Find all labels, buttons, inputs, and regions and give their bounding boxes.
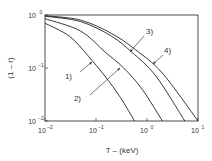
x-tick-exponent: 1 xyxy=(202,124,205,130)
x-tick-label: 10 xyxy=(38,127,46,134)
curve-labels: 1)2)3)4) xyxy=(65,27,172,103)
y-tick-label: 10 xyxy=(28,118,36,125)
curves xyxy=(45,16,198,121)
curve-3 xyxy=(45,16,185,121)
y-axis-title: (1 – r) xyxy=(6,57,15,79)
y-tick-exponent: 0 xyxy=(40,9,43,15)
x-tick-exponent: 0 xyxy=(151,124,154,130)
curve-label-2: 2) xyxy=(74,94,81,103)
x-tick-label: 10 xyxy=(140,127,148,134)
curve-2 xyxy=(45,19,162,121)
y-tick-exponent: −1 xyxy=(38,62,44,68)
x-tick-label: 10 xyxy=(89,127,97,134)
y-tick-label: 10 xyxy=(28,12,36,19)
y-tick-exponent: −2 xyxy=(38,115,44,121)
axis-labels: T – (keV) (1 – r) xyxy=(6,57,139,155)
chart: 10−210−110010110010−110−2 1)2)3)4) T – (… xyxy=(0,0,212,161)
y-tick-label: 10 xyxy=(28,65,36,72)
curve-label-4: 4) xyxy=(164,46,171,55)
x-tick-exponent: −1 xyxy=(98,124,104,130)
curve-label-3: 3) xyxy=(146,27,153,36)
x-axis-title: T – (keV) xyxy=(106,146,139,155)
x-tick-label: 10 xyxy=(191,127,199,134)
arrow-icon xyxy=(130,36,144,52)
curve-label-1: 1) xyxy=(65,72,72,81)
x-tick-exponent: −2 xyxy=(47,124,53,130)
